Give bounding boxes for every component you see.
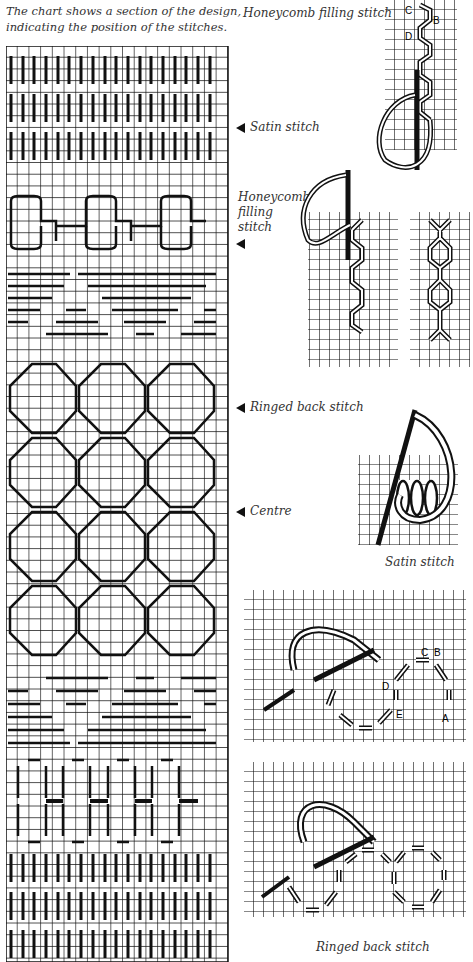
caption-honeycomb-top: Honeycomb filling stitch	[243, 6, 392, 20]
svg-text:C: C	[421, 647, 428, 658]
honeycomb-diagram-middle	[290, 170, 473, 375]
svg-text:D: D	[382, 681, 389, 692]
intro-line-2: indicating the position of the stitches.	[6, 19, 246, 35]
intro-caption: The chart shows a section of the design,…	[6, 3, 246, 35]
svg-text:E: E	[396, 709, 403, 720]
caption-satin-stitch: Satin stitch	[385, 555, 455, 569]
svg-text:B: B	[434, 647, 441, 658]
satin-stitch-diagram	[350, 395, 465, 555]
arrow-left-icon	[236, 123, 245, 133]
label-centre: Centre	[236, 504, 292, 518]
label-honeycomb-arrow	[236, 236, 250, 250]
intro-line-1: The chart shows a section of the design,	[6, 3, 246, 19]
svg-text:A: A	[442, 713, 449, 724]
letter-b: B	[433, 15, 440, 26]
label-satin-stitch: Satin stitch	[236, 120, 320, 134]
design-chart	[6, 46, 230, 962]
label-ringed-back-stitch: Ringed back stitch	[236, 400, 364, 414]
ringed-back-stitch-diagram-1: C B D E A	[244, 590, 469, 745]
ringed-back-stitch-diagram-2	[244, 762, 469, 922]
arrow-left-icon	[236, 403, 245, 413]
arrow-left-icon	[236, 239, 245, 249]
arrow-left-icon	[236, 507, 245, 517]
caption-ringed-back-stitch: Ringed back stitch	[316, 940, 430, 954]
honeycomb-diagram-top: C B D	[375, 0, 473, 180]
letter-c: C	[405, 5, 412, 16]
letter-d: D	[405, 31, 412, 42]
